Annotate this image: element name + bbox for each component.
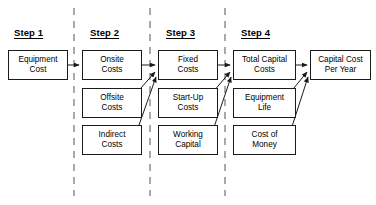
node-cost-of-money-line2: Money (252, 140, 278, 150)
node-start-up-costs[interactable]: Start-Up Costs (158, 88, 218, 118)
node-working-capital-line1: Working (173, 130, 203, 140)
node-cost-of-money[interactable]: Cost of Money (233, 125, 296, 155)
node-total-capital-costs-line1: Total Capital (242, 55, 287, 65)
node-onsite-costs-line1: Onsite (100, 55, 124, 65)
node-onsite-costs[interactable]: Onsite Costs (82, 50, 142, 80)
step-label-1: Step 1 (14, 27, 43, 38)
node-equipment-life-line2: Life (245, 103, 284, 113)
node-capital-cost-per-year-line2: Per Year (318, 65, 363, 75)
node-fixed-costs-line1: Fixed (178, 55, 199, 65)
node-onsite-costs-line2: Costs (100, 65, 124, 75)
node-offsite-costs-line1: Offsite (100, 93, 124, 103)
node-equipment-cost-line2: Cost (18, 65, 57, 75)
node-equipment-life[interactable]: Equipment Life (233, 88, 296, 118)
step-label-3: Step 3 (166, 27, 195, 38)
node-offsite-costs[interactable]: Offsite Costs (82, 88, 142, 118)
node-equipment-cost-line1: Equipment (18, 55, 57, 65)
node-start-up-costs-line1: Start-Up (173, 93, 203, 103)
node-capital-cost-per-year[interactable]: Capital Cost Per Year (310, 50, 371, 80)
flow-diagram: Step 1 Step 2 Step 3 Step 4 Equipment Co… (0, 0, 376, 205)
step-label-4: Step 4 (241, 27, 270, 38)
node-indirect-costs[interactable]: Indirect Costs (82, 125, 142, 155)
node-indirect-costs-line1: Indirect (99, 130, 126, 140)
node-cost-of-money-line1: Cost of (252, 130, 278, 140)
node-capital-cost-per-year-line1: Capital Cost (318, 55, 363, 65)
node-indirect-costs-line2: Costs (99, 140, 126, 150)
node-start-up-costs-line2: Costs (173, 103, 203, 113)
node-equipment-cost[interactable]: Equipment Cost (8, 50, 68, 80)
node-fixed-costs-line2: Costs (178, 65, 199, 75)
node-working-capital[interactable]: Working Capital (158, 125, 218, 155)
node-working-capital-line2: Capital (173, 140, 203, 150)
node-total-capital-costs[interactable]: Total Capital Costs (233, 50, 296, 80)
step-label-2: Step 2 (90, 27, 119, 38)
node-total-capital-costs-line2: Costs (242, 65, 287, 75)
node-fixed-costs[interactable]: Fixed Costs (158, 50, 218, 80)
node-equipment-life-line1: Equipment (245, 93, 284, 103)
node-offsite-costs-line2: Costs (100, 103, 124, 113)
